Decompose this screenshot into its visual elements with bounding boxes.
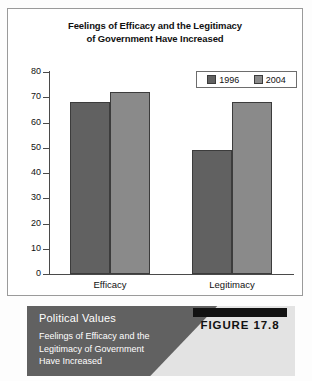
y-axis-tick-label-wrap: 20	[13, 224, 41, 225]
bar-legitimacy-2004	[232, 102, 272, 274]
y-axis-tick-label-wrap: 0	[13, 274, 41, 275]
y-axis-tick-label: 70	[15, 91, 41, 101]
legend-swatch-1996-icon	[207, 75, 216, 84]
y-axis-tick-label-wrap: 60	[13, 123, 41, 124]
bar-efficacy-1996	[70, 102, 110, 274]
chart-legend: 1996 2004	[196, 71, 297, 88]
figure-frame: Feelings of Efficacy and the Legitimacy …	[7, 8, 303, 296]
y-axis-tick-label: 40	[15, 167, 41, 177]
caption-description: Feelings of Efficacy and the Legitimacy …	[39, 330, 209, 368]
y-axis-tick-label: 0	[15, 268, 41, 278]
y-axis-tick-label-wrap: 30	[13, 198, 41, 199]
plot-area	[49, 72, 293, 274]
y-axis-tick-label: 50	[15, 142, 41, 152]
caption-block: Political Values Feelings of Efficacy an…	[27, 306, 295, 376]
caption-description-line-1: Feelings of Efficacy and the	[39, 330, 209, 343]
y-axis-tick-label-wrap: 10	[13, 249, 41, 250]
legend-swatch-2004-icon	[254, 75, 263, 84]
bar-efficacy-2004	[110, 92, 150, 274]
y-axis-tick-label: 30	[15, 192, 41, 202]
figure-badge-label: FIGURE 17.8	[193, 319, 287, 331]
legend-label-2004: 2004	[266, 75, 286, 85]
x-axis-label-efficacy: Efficacy	[49, 279, 171, 290]
legend-item-1996: 1996	[207, 75, 239, 85]
y-axis-tick-label: 60	[15, 117, 41, 127]
chart-title-line-2: of Government Have Increased	[8, 33, 302, 46]
caption-description-line-3: Have Increased	[39, 355, 209, 368]
y-axis-tick-label-wrap: 40	[13, 173, 41, 174]
caption-description-line-2: Legitimacy of Government	[39, 343, 209, 356]
x-axis-label-legitimacy: Legitimacy	[171, 279, 293, 290]
chart-title-line-1: Feelings of Efficacy and the Legitimacy	[8, 20, 302, 33]
figure-badge: FIGURE 17.8	[193, 308, 287, 331]
caption-heading: Political Values	[39, 312, 116, 324]
y-axis-tick-label: 80	[15, 66, 41, 76]
figure-badge-bar	[193, 308, 287, 317]
y-axis-tick-label-wrap: 70	[13, 97, 41, 98]
y-axis-tick-label: 10	[15, 243, 41, 253]
y-axis-tick-label-wrap: 80	[13, 72, 41, 73]
legend-label-1996: 1996	[219, 75, 239, 85]
legend-item-2004: 2004	[254, 75, 286, 85]
y-axis-tick-label-wrap: 50	[13, 148, 41, 149]
chart-title: Feelings of Efficacy and the Legitimacy …	[8, 20, 302, 45]
bar-legitimacy-1996	[192, 150, 232, 274]
x-axis-line	[49, 274, 294, 275]
y-axis-tick-label: 20	[15, 218, 41, 228]
